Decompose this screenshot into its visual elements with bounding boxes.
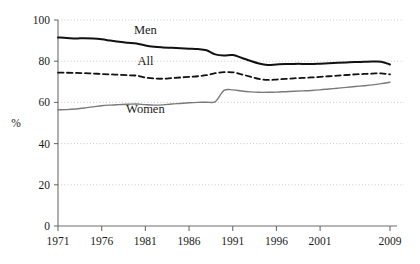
series-label-all: All — [137, 54, 154, 68]
x-tick-label-1971: 1971 — [47, 235, 70, 247]
y-tick-label-80: 80 — [39, 55, 51, 67]
y-tick-label-20: 20 — [39, 179, 51, 191]
line-chart: 020406080100 197119761981198619911996200… — [0, 0, 420, 264]
x-tick-label-1981: 1981 — [134, 235, 157, 247]
x-tick-label-1991: 1991 — [221, 235, 244, 247]
x-tick-label-2009: 2009 — [379, 235, 402, 247]
x-tick-label-1996: 1996 — [265, 235, 288, 247]
y-axis-title: % — [11, 117, 21, 129]
series-label-men: Men — [134, 23, 158, 37]
y-tick-label-100: 100 — [33, 14, 51, 26]
x-tick-label-2001: 2001 — [309, 235, 332, 247]
y-tick-label-0: 0 — [44, 220, 50, 232]
series-label-women: Women — [126, 102, 165, 116]
y-tick-label-60: 60 — [39, 96, 51, 108]
chart-background — [0, 0, 420, 264]
x-tick-label-1976: 1976 — [90, 235, 113, 247]
y-tick-label-40: 40 — [39, 138, 51, 150]
x-tick-label-1986: 1986 — [178, 235, 201, 247]
chart-container: 020406080100 197119761981198619911996200… — [0, 0, 420, 264]
